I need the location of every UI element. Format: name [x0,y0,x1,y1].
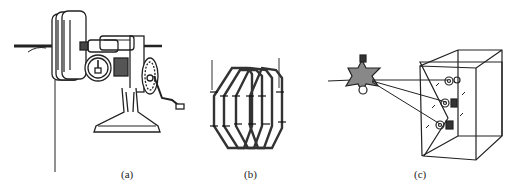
caption-b: (b) [244,168,257,180]
caption-a: (a) [121,168,133,180]
winding-machine-illustration [14,11,184,172]
caption-c: (c) [414,168,426,180]
terminal-box-illustration [328,50,502,160]
hexagonal-coils-illustration [210,58,286,148]
figure-canvas [0,0,512,193]
